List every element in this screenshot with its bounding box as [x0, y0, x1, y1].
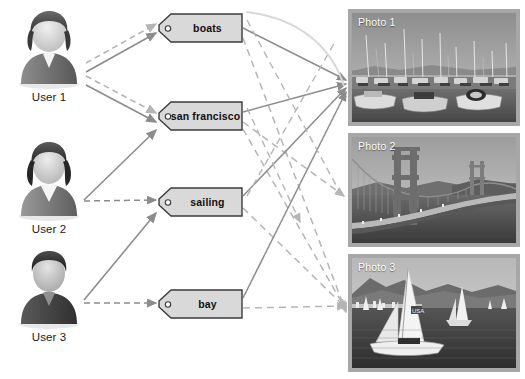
edge-boats-photo3	[243, 38, 346, 312]
edge-sanfrancisco-photo3	[243, 129, 346, 310]
tag-label: boats	[158, 22, 243, 34]
edge-bay-photo3	[243, 306, 346, 308]
edge-crossing-b	[247, 108, 300, 222]
edge-boats-photo1	[243, 28, 346, 80]
edge-user2-sanfrancisco	[84, 130, 156, 200]
edge-user3-sailing	[84, 213, 156, 300]
tag-node-boats[interactable]: boats	[158, 13, 243, 43]
svg-text:USA: USA	[412, 308, 424, 314]
user-avatar-icon	[13, 8, 85, 90]
user-label: User 1	[6, 91, 92, 103]
photo-label: Photo 1	[358, 16, 396, 28]
photo-label: Photo 2	[358, 140, 396, 152]
user-label: User 2	[6, 223, 92, 235]
user-node-2[interactable]: User 2	[6, 140, 92, 235]
tag-node-sailing[interactable]: sailing	[158, 187, 243, 217]
tag-label: sailing	[158, 196, 243, 208]
user-avatar-icon	[13, 248, 85, 330]
tag-label: bay	[158, 298, 243, 310]
edge-sailing-photo3	[243, 208, 346, 308]
photo-image	[352, 13, 516, 122]
photo-card-2[interactable]: Photo 2	[348, 133, 520, 247]
tag-node-sanfrancisco[interactable]: san francisco	[158, 101, 243, 131]
user-node-3[interactable]: User 3	[6, 248, 92, 343]
edge-sailing-photo1	[243, 88, 346, 196]
tag-label: san francisco	[158, 110, 243, 122]
user-node-1[interactable]: User 1	[6, 8, 92, 103]
photo-card-3[interactable]: USA Photo 3	[348, 254, 520, 372]
photo-card-1[interactable]: Photo 1	[348, 9, 520, 126]
edge-arc-decor	[246, 12, 344, 86]
diagram-canvas: User 1	[0, 0, 525, 379]
user-avatar-icon	[13, 140, 85, 222]
photo-image	[352, 137, 516, 243]
edge-bay-photo1	[243, 92, 346, 298]
photo-label: Photo 3	[358, 261, 396, 273]
photo-image: USA	[352, 258, 516, 368]
edge-user1-boats	[86, 24, 156, 72]
edge-user1-sanfrancisco	[86, 76, 156, 122]
user-label: User 3	[6, 331, 92, 343]
tag-node-bay[interactable]: bay	[158, 289, 243, 319]
edge-crossing-c	[247, 40, 336, 196]
edge-user2-sailing	[84, 200, 156, 201]
